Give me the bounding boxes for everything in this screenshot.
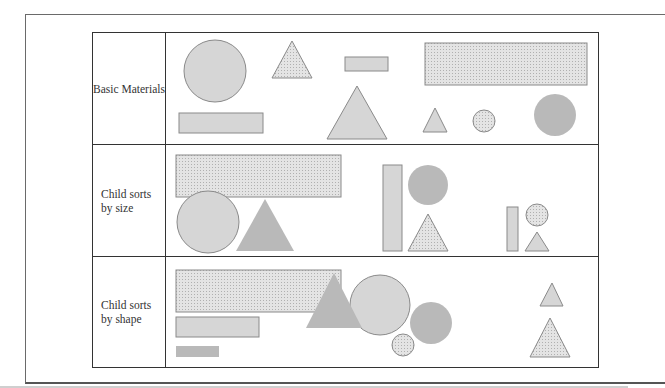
small-light-triangle [540, 283, 563, 306]
row-label: Child sorts by shape [93, 257, 166, 367]
medium-dotted-triangle [272, 41, 312, 78]
large-light-circle [177, 191, 239, 253]
large-dotted-rectangle [176, 270, 341, 312]
medium-light-rectangle [179, 113, 263, 133]
row-label-line: by shape [101, 312, 151, 326]
shapes-sort-by-size [166, 145, 598, 256]
large-dotted-rectangle [425, 43, 587, 85]
small-dotted-circle [473, 110, 495, 132]
medium-dark-circle [410, 302, 452, 344]
shapes-basic-materials [166, 33, 598, 144]
small-light-rectangle [507, 207, 518, 251]
medium-dotted-triangle [408, 214, 448, 251]
medium-light-rectangle [176, 317, 259, 337]
large-light-triangle [327, 86, 387, 139]
medium-dark-circle [534, 94, 576, 136]
row-basic-materials: Basic Materials [93, 33, 598, 145]
row-label: Child sorts by size [93, 145, 166, 256]
small-dotted-circle [526, 204, 548, 226]
large-dotted-rectangle [176, 155, 341, 197]
large-dark-triangle [236, 199, 294, 251]
small-light-triangle [525, 232, 549, 251]
shape-cell [166, 145, 598, 256]
row-label-line: Child sorts [101, 187, 151, 201]
small-dotted-circle [392, 334, 414, 356]
row-label-line: by size [101, 201, 151, 215]
shapes-sort-by-shape [166, 257, 598, 367]
sorting-table: Basic Materials Child sorts by size Chil… [92, 32, 599, 368]
row-label: Basic Materials [93, 33, 166, 144]
small-light-rectangle [345, 57, 388, 71]
medium-dark-circle [408, 165, 448, 205]
shape-cell [166, 257, 598, 367]
row-label-line: Child sorts [101, 298, 151, 312]
shape-cell [166, 33, 598, 144]
small-light-triangle [423, 108, 447, 132]
medium-light-rectangle [383, 165, 402, 251]
large-light-circle [184, 40, 246, 102]
row-label-line: Basic Materials [93, 82, 165, 96]
row-sort-by-size: Child sorts by size [93, 145, 598, 257]
row-sort-by-shape: Child sorts by shape [93, 257, 598, 367]
small-dark-rectangle [176, 346, 219, 357]
medium-dotted-triangle [530, 318, 570, 357]
